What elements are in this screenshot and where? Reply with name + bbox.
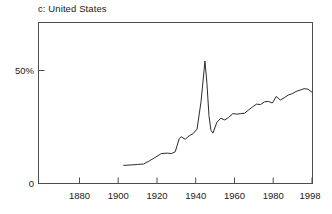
x-tick-label-1960: 1960: [224, 190, 245, 201]
x-tick-label-1880: 1880: [69, 190, 90, 201]
x-tick-label-1940: 1940: [185, 190, 206, 201]
y-tick-label-50: 50%: [15, 65, 35, 76]
x-tick-label-1980: 1980: [263, 190, 284, 201]
x-tick-label-1900: 1900: [108, 190, 129, 201]
data-line-united-states: [124, 61, 312, 165]
x-axis-ticks: [80, 178, 313, 184]
y-tick-label-0: 0: [29, 178, 34, 189]
x-tick-label-1920: 1920: [146, 190, 167, 201]
line-chart: 50% 0 1880 1900 1920 1940 1960 1980 1998: [0, 0, 332, 214]
x-tick-label-1998: 1998: [299, 190, 320, 201]
figure-panel: c: United States 50% 0 1880 1900 1920 19…: [0, 0, 332, 214]
